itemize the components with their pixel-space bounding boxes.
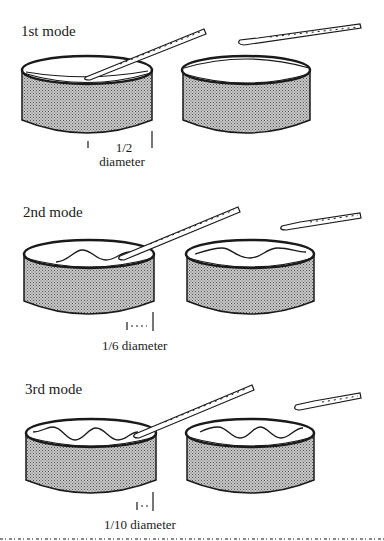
mode-2-drum-right (186, 240, 314, 314)
standing-wave-diagram (0, 0, 384, 541)
mode-1-drum-left (22, 56, 152, 133)
mode-3-drum-right (186, 419, 314, 493)
mode-3-title: 3rd mode (25, 381, 82, 398)
mode-2-measure-ticks (127, 312, 153, 331)
mode-2-stick-right (281, 213, 361, 230)
mode-3-stick-right (295, 393, 361, 410)
mode-3-measure-ticks (137, 492, 153, 511)
mode-2-title: 2nd mode (23, 204, 83, 221)
mode-1-drum-right (182, 56, 310, 133)
mode-2-measure-label: 1/6 diameter (102, 338, 167, 354)
mode-1-title: 1st mode (21, 23, 76, 40)
mode-3-measure-label: 1/10 diameter (104, 517, 176, 533)
mode-1-stick-right (239, 24, 361, 45)
mode-1-measure-unit: diameter (90, 154, 154, 170)
mode-3-drum-left (26, 419, 156, 493)
